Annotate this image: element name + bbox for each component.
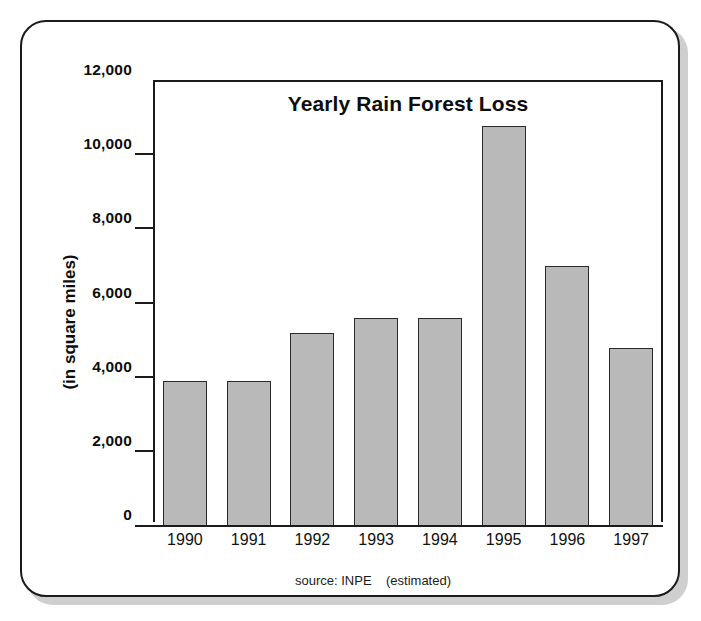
chart-page: (in square miles) Yearly Rain Forest Los… [0, 0, 701, 621]
y-axis-tick-label: 0 [46, 506, 132, 524]
bar-1996 [545, 266, 589, 526]
bar-1992 [290, 333, 334, 526]
y-axis-tick-label: 10,000 [46, 135, 132, 153]
x-axis-line [135, 525, 663, 527]
y-axis-tick-label: 6,000 [46, 284, 132, 302]
y-axis-tick [135, 302, 155, 304]
y-axis-tick [135, 153, 155, 155]
x-axis-tick-label: 1994 [408, 531, 472, 549]
source-note: source: INPE (estimated) [153, 573, 593, 588]
bar-1993 [354, 318, 398, 526]
bar-1995 [482, 126, 526, 527]
x-axis-tick-label: 1995 [472, 531, 536, 549]
y-axis-tick [135, 450, 155, 452]
bar-1994 [418, 318, 462, 526]
bar-1990 [163, 381, 207, 526]
y-axis-tick-label: 2,000 [46, 432, 132, 450]
x-axis-tick-label: 1996 [536, 531, 600, 549]
y-axis-tick [135, 227, 155, 229]
y-axis-tick [135, 376, 155, 378]
bar-1997 [609, 348, 653, 526]
y-axis-labels: 12,00010,0008,0006,0004,0002,0000 [36, 22, 132, 621]
x-axis-tick-label: 1997 [599, 531, 663, 549]
x-axis-tick-label: 1992 [281, 531, 345, 549]
y-axis-tick-label: 8,000 [46, 209, 132, 227]
y-axis-tick-label: 12,000 [46, 61, 132, 79]
chart-card: (in square miles) Yearly Rain Forest Los… [20, 20, 680, 597]
bar-1991 [227, 381, 271, 526]
x-axis-tick-label: 1991 [217, 531, 281, 549]
x-axis-tick-label: 1990 [153, 531, 217, 549]
y-axis-tick-label: 4,000 [46, 358, 132, 376]
x-axis-labels: 19901991199219931994199519961997 [153, 531, 663, 557]
x-axis-tick-label: 1993 [344, 531, 408, 549]
bar-series [153, 80, 663, 526]
